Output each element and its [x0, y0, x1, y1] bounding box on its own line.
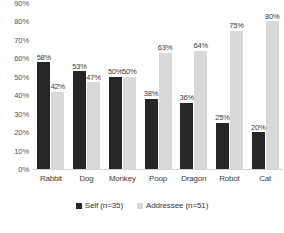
- x-axis-tick-label: Cat: [247, 172, 283, 186]
- bar-slot: 47%: [87, 4, 100, 169]
- bar-slot: 20%: [252, 4, 265, 169]
- x-axis: RabbitDogMonkeyPoopDragonRobotCat: [33, 172, 283, 186]
- bar-value-label: 80%: [265, 13, 279, 21]
- y-axis-tick-label: 50%: [14, 74, 29, 82]
- x-axis-tick-label: Monkey: [104, 172, 140, 186]
- bar-slot: 80%: [266, 4, 279, 169]
- bar[interactable]: 58%: [37, 62, 50, 169]
- bar[interactable]: 50%: [109, 77, 122, 169]
- bar[interactable]: 42%: [51, 92, 64, 169]
- legend-item[interactable]: Addressee (n=51): [137, 202, 208, 210]
- bar-group: 25%75%: [212, 4, 248, 169]
- bar-slot: 53%: [73, 4, 86, 169]
- y-axis-tick-label: 20%: [14, 129, 29, 137]
- bar-value-label: 50%: [108, 68, 122, 76]
- bar-slot: 50%: [109, 4, 122, 169]
- bar-slot: 58%: [37, 4, 50, 169]
- y-axis-tick-label: 90%: [14, 0, 29, 8]
- plot-wrapper: 90%80%70%60%50%40%30%20%10%0% 58%42%53%4…: [0, 4, 284, 190]
- bar-value-label: 64%: [194, 42, 208, 50]
- y-axis-tick-label: 30%: [14, 111, 29, 119]
- bar-group: 58%42%: [33, 4, 69, 169]
- bar[interactable]: 63%: [159, 53, 172, 169]
- bar[interactable]: 64%: [194, 51, 207, 169]
- bar-group: 36%64%: [176, 4, 212, 169]
- bar-value-label: 36%: [180, 94, 194, 102]
- x-axis-tick-label: Rabbit: [33, 172, 69, 186]
- x-axis-tick-label: Poop: [140, 172, 176, 186]
- bar-slot: 64%: [194, 4, 207, 169]
- legend-swatch-icon: [137, 203, 143, 209]
- legend-label: Self (n=35): [85, 202, 123, 210]
- x-axis-tick-label: Dragon: [176, 172, 212, 186]
- bar[interactable]: 20%: [252, 132, 265, 169]
- bar-slot: 42%: [51, 4, 64, 169]
- bar-slot: 25%: [216, 4, 229, 169]
- bar[interactable]: 75%: [230, 31, 243, 169]
- bar-value-label: 47%: [86, 74, 100, 82]
- bar-value-label: 50%: [122, 68, 136, 76]
- bar-value-label: 58%: [37, 54, 51, 62]
- bar-slot: 38%: [145, 4, 158, 169]
- bar-slot: 36%: [180, 4, 193, 169]
- bar-value-label: 75%: [229, 22, 243, 30]
- y-axis-tick-label: 80%: [14, 19, 29, 27]
- bar-group: 38%63%: [140, 4, 176, 169]
- legend-label: Addressee (n=51): [146, 202, 208, 210]
- bar-slot: 75%: [230, 4, 243, 169]
- x-axis-tick-label: Dog: [69, 172, 105, 186]
- y-axis-tick-label: 40%: [14, 92, 29, 100]
- bar[interactable]: 50%: [123, 77, 136, 169]
- bar-value-label: 42%: [51, 83, 65, 91]
- bar-value-label: 25%: [215, 114, 229, 122]
- bar-value-label: 38%: [144, 90, 158, 98]
- bar[interactable]: 80%: [266, 21, 279, 169]
- bar[interactable]: 36%: [180, 103, 193, 169]
- bar-value-label: 20%: [251, 124, 265, 132]
- bar[interactable]: 38%: [145, 99, 158, 169]
- y-axis-tick-label: 10%: [14, 148, 29, 156]
- x-axis-tick-label: Robot: [212, 172, 248, 186]
- y-axis-tick-label: 0%: [18, 166, 29, 174]
- bar-group: 53%47%: [69, 4, 105, 169]
- bar[interactable]: 25%: [216, 123, 229, 169]
- bar-value-label: 63%: [158, 44, 172, 52]
- legend-swatch-icon: [76, 203, 82, 209]
- bar-slot: 63%: [159, 4, 172, 169]
- legend-item[interactable]: Self (n=35): [76, 202, 123, 210]
- bar[interactable]: 53%: [73, 71, 86, 169]
- bar-group: 20%80%: [247, 4, 283, 169]
- y-axis: 90%80%70%60%50%40%30%20%10%0%: [0, 4, 32, 170]
- bar-chart: 90%80%70%60%50%40%30%20%10%0% 58%42%53%4…: [0, 0, 284, 233]
- bar-slot: 50%: [123, 4, 136, 169]
- bar-value-label: 53%: [72, 63, 86, 71]
- plot-area: 58%42%53%47%50%50%38%63%36%64%25%75%20%8…: [33, 4, 283, 170]
- bar[interactable]: 47%: [87, 82, 100, 169]
- y-axis-tick-label: 70%: [14, 37, 29, 45]
- y-axis-tick-label: 60%: [14, 56, 29, 64]
- chart-legend: Self (n=35)Addressee (n=51): [0, 202, 284, 210]
- bar-group: 50%50%: [104, 4, 140, 169]
